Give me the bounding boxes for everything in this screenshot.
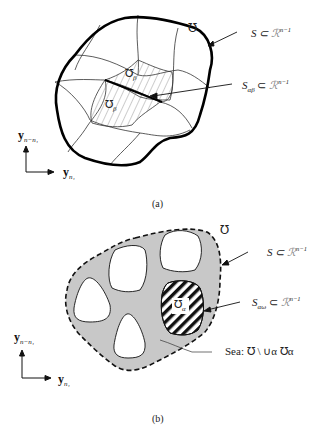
axis-vertical-b-sub: n−n₁ bbox=[20, 338, 34, 346]
region-lower-symbol: ℧ bbox=[105, 98, 113, 110]
arrow-boundary-b bbox=[222, 252, 248, 265]
boundary-label-b-script: ℛ bbox=[287, 246, 296, 258]
figure-canvas bbox=[0, 0, 322, 436]
interface-label-b: Sαω ⊂ ℛn−1 bbox=[252, 295, 301, 311]
axis-horizontal-label-b: yn₁ bbox=[58, 372, 70, 388]
interface-label-b-sub: αω bbox=[258, 303, 267, 311]
region-upper-symbol: ℧ bbox=[125, 67, 133, 79]
boundary-label-b-sup: n−1 bbox=[296, 245, 307, 252]
boundary-label-a: S ⊂ ℛn−1 bbox=[251, 26, 291, 40]
island-alpha-sub: α bbox=[182, 305, 186, 313]
region-lower-sub: β bbox=[113, 105, 117, 113]
boundary-label-a-script: ℛ bbox=[271, 27, 280, 39]
axis-horizontal-b-sub: n₁ bbox=[64, 380, 70, 388]
region-upper-label: ℧β bbox=[125, 67, 137, 82]
boundary-label-b-main: S ⊂ bbox=[267, 246, 287, 258]
boundary-label-a-main: S ⊂ bbox=[251, 27, 271, 39]
boundary-label-a-sup: n−1 bbox=[280, 26, 291, 33]
axis-horizontal-a-sub: n₁ bbox=[69, 173, 75, 181]
figure-a bbox=[24, 15, 238, 175]
region-lower-label: ℧β bbox=[105, 98, 117, 113]
interface-label-b-script: ℛ bbox=[281, 296, 290, 308]
sea-label: Sea: ℧ \ ∪α ℧α bbox=[225, 345, 294, 358]
island-3 bbox=[160, 231, 201, 272]
interface-label-a: Sαβ ⊂ ℛn−1 bbox=[242, 78, 289, 94]
island-alpha-label: ℧α bbox=[174, 298, 186, 313]
interface-label-a-sup: n−1 bbox=[278, 78, 289, 85]
caption-a: (a) bbox=[152, 198, 163, 209]
caption-b: (b) bbox=[152, 413, 164, 424]
boundary-label-b: S ⊂ ℛn−1 bbox=[267, 245, 307, 259]
interface-label-b-rel: ⊂ bbox=[266, 296, 281, 308]
axis-vertical-label-a: yn−n₁ bbox=[18, 128, 38, 144]
region-upper-sub: β bbox=[133, 74, 137, 82]
interface-label-b-sup: n−1 bbox=[290, 295, 301, 302]
axes-b bbox=[20, 350, 52, 381]
interface-label-a-rel: ⊂ bbox=[255, 79, 270, 91]
arrow-boundary-a bbox=[208, 32, 237, 46]
interface-label-a-script: ℛ bbox=[269, 79, 278, 91]
axis-vertical-a-sub: n−n₁ bbox=[24, 136, 38, 144]
figure-b bbox=[20, 229, 249, 380]
axis-vertical-label-b: yn−n₁ bbox=[14, 330, 34, 346]
axes-a bbox=[24, 146, 55, 175]
domain-label-a: ℧ bbox=[188, 21, 197, 36]
axis-horizontal-label-a: yn₁ bbox=[63, 165, 75, 181]
island-2 bbox=[109, 245, 147, 291]
interface-label-a-sub: αβ bbox=[248, 86, 255, 94]
domain-label-b: ℧ bbox=[220, 223, 229, 238]
island-alpha-symbol: ℧ bbox=[174, 298, 182, 310]
